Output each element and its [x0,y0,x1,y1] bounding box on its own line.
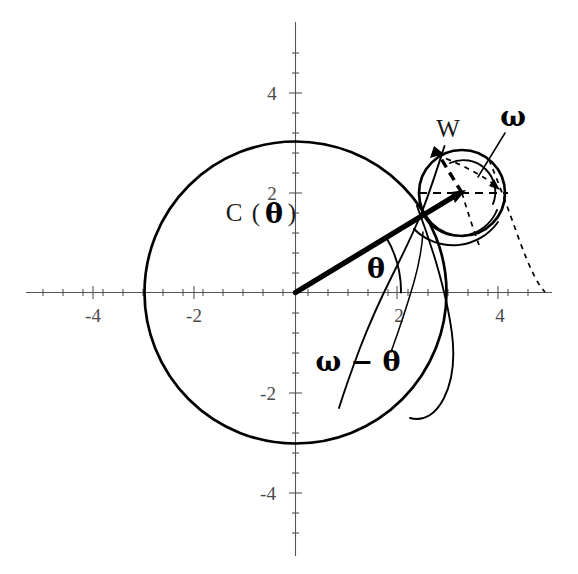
c-theta-label-close-paren: ) [288,199,296,227]
dashed-falling-arc [489,160,545,292]
axes-group: -4 -2 2 4 4 2 -2 -4 [26,22,552,556]
omega-label: ω [500,101,526,132]
x-tick-label-4: 4 [495,305,505,326]
c-theta-label-open-paren: ( [252,199,260,227]
theta-label: θ [367,253,385,284]
figure-canvas: -4 -2 2 4 4 2 -2 -4 [0,0,578,574]
x-tick-label-2: 2 [394,305,404,326]
y-tick-label-minus4: -4 [260,483,276,504]
epicycloid-trace-branch [410,206,453,419]
w-point-label: W [436,115,460,142]
c-theta-label-theta: θ [265,198,283,229]
x-tick-label-minus2: -2 [186,305,202,326]
c-theta-label-c: C [226,199,243,226]
y-tick-label-4: 4 [267,83,277,104]
x-tick-label-minus4: -4 [85,305,101,326]
omega-minus-theta-arc [425,210,497,236]
omega-minus-theta-label: ω − θ [315,346,400,377]
y-tick-label-minus2: -2 [260,383,276,404]
geometry-diagram: -4 -2 2 4 4 2 -2 -4 [0,0,578,574]
